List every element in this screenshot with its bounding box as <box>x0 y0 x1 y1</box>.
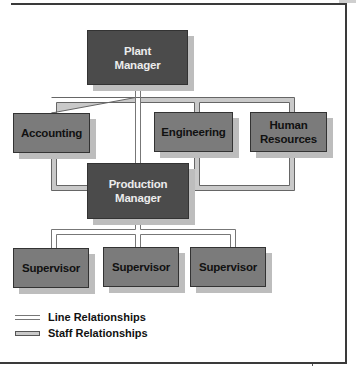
org-chart-canvas: Plant Manager Accounting Engineering Hum… <box>0 0 356 366</box>
node-human-resources: Human Resources <box>250 112 327 152</box>
node-supervisor-1-label: Supervisor <box>22 261 80 275</box>
node-supervisor-3: Supervisor <box>190 247 266 287</box>
label-line: Plant <box>124 45 151 57</box>
label-line: Resources <box>260 133 317 145</box>
label-line: Manager <box>115 59 161 71</box>
node-supervisor-1: Supervisor <box>13 248 89 288</box>
legend-line-relationships: Line Relationships <box>15 311 146 323</box>
label-line: Production <box>109 178 168 190</box>
node-production-manager: Production Manager <box>87 163 189 219</box>
node-plant-manager-label: Plant Manager <box>115 44 161 72</box>
node-engineering-label: Engineering <box>161 125 225 139</box>
node-supervisor-3-label: Supervisor <box>199 260 257 274</box>
node-production-manager-label: Production Manager <box>109 177 168 205</box>
node-plant-manager: Plant Manager <box>87 30 188 85</box>
label-line: Manager <box>115 192 161 204</box>
node-accounting: Accounting <box>13 113 90 153</box>
staff-band-top <box>52 98 295 114</box>
legend-staff-relationships: Staff Relationships <box>15 327 148 339</box>
legend-staff-label: Staff Relationships <box>48 327 148 339</box>
staff-relationship-swatch-icon <box>15 331 40 336</box>
line-production-to-supervisors-inner <box>57 235 231 249</box>
node-accounting-label: Accounting <box>21 126 82 140</box>
label-line: Human <box>270 119 308 131</box>
node-supervisor-2-label: Supervisor <box>112 260 170 274</box>
line-relationship-swatch-icon <box>15 315 40 320</box>
legend-line-label: Line Relationships <box>48 311 146 323</box>
node-human-resources-label: Human Resources <box>260 118 317 146</box>
node-engineering: Engineering <box>154 112 233 152</box>
node-supervisor-2: Supervisor <box>103 247 179 287</box>
